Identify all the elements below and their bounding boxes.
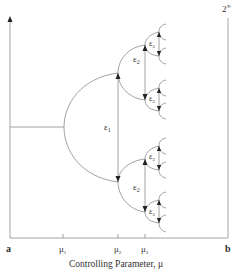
arrow-up-icon (143, 159, 148, 165)
arrow-down-icon (143, 94, 148, 100)
epsilon1-label: ε1 (104, 122, 111, 133)
epsilon3-label-4: ε3 (149, 207, 155, 217)
period16-arc-1 (159, 24, 166, 40)
epsilon2-label-upper: ε2 (133, 54, 140, 65)
y-axis-arrow-icon (8, 16, 13, 22)
arrow-up-icon (143, 45, 148, 51)
period4-arc-upper (118, 45, 145, 100)
arrow-up-icon (116, 73, 121, 79)
period16-arc-4 (159, 103, 166, 119)
x-axis-start-label: a (6, 243, 11, 254)
tick-label-mu1: μ1 (59, 244, 67, 255)
arrow-down-icon (143, 206, 148, 212)
period16-arc-8 (159, 215, 166, 232)
period4-arc-lower (118, 159, 145, 212)
period16-arc-2 (159, 48, 166, 64)
tick-label-mu2: μ2 (114, 244, 122, 255)
arrow-down-icon (157, 51, 161, 56)
period16-arc-5 (159, 138, 166, 154)
bifurcation-diagram: ε1 ε2 ε3 ε3 ε2 ε3 ε3 a b μ1 μ2 μ3 Contro… (0, 0, 233, 271)
corner-label: 2∞ (222, 3, 231, 14)
tick-label-mu3: μ3 (141, 244, 149, 255)
epsilon3-label-3: ε3 (149, 152, 155, 162)
epsilon3-label-2: ε3 (149, 94, 155, 104)
arrow-down-icon (157, 165, 161, 170)
epsilon3-label-1: ε3 (149, 39, 155, 49)
arrow-down-icon (116, 176, 121, 182)
period16-arc-6 (159, 162, 166, 178)
arrow-down-icon (157, 218, 161, 223)
x-axis-title: Controlling Parameter, μ (69, 259, 163, 269)
period16-arc-3 (159, 80, 166, 96)
epsilon2-label-lower: ε2 (133, 182, 140, 193)
period16-arc-7 (159, 192, 166, 208)
x-axis-end-label: b (225, 243, 231, 254)
arrow-down-icon (157, 106, 161, 111)
